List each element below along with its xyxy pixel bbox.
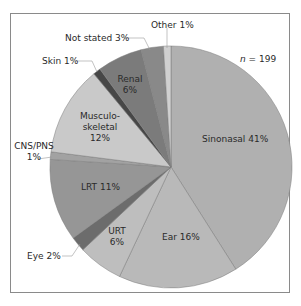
n-annotation: n = 199	[240, 54, 276, 64]
label-urt-2: 6%	[110, 237, 125, 247]
leader-eye	[62, 244, 80, 256]
label-renal-1: Renal	[117, 74, 142, 84]
label-skin: Skin 1%	[42, 56, 79, 66]
label-sinonasal: Sinonasal 41%	[202, 134, 269, 144]
label-musculo-2: skeletal	[83, 122, 118, 132]
label-not-stated: Not stated 3%	[65, 33, 130, 43]
label-cns-pns-1: CNS/PNS	[14, 141, 54, 151]
pie-chart: n = 199 Sinonasal 41% Ear 16% URT 6% Eye…	[0, 0, 301, 306]
label-other: Other 1%	[151, 20, 194, 30]
leader-skin	[76, 61, 97, 72]
label-ear: Ear 16%	[162, 232, 200, 242]
label-urt-1: URT	[108, 226, 126, 236]
label-eye: Eye 2%	[27, 251, 61, 261]
label-musculo-1: Musculo-	[80, 111, 120, 121]
label-cns-pns-2: 1%	[27, 152, 42, 162]
label-lrt: LRT 11%	[81, 182, 120, 192]
label-renal-2: 6%	[123, 85, 138, 95]
label-musculo-3: 12%	[90, 133, 110, 143]
